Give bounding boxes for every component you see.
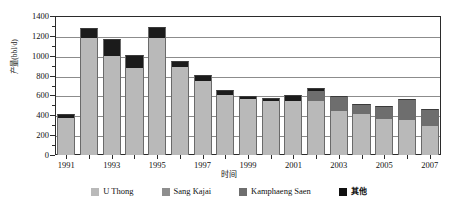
x-tick-label: 2007 — [412, 160, 448, 170]
bar-column[interactable] — [171, 61, 189, 155]
bar-segment[interactable] — [421, 109, 439, 126]
bar-segment[interactable] — [307, 101, 325, 155]
y-tick-label: 200 — [15, 131, 49, 140]
bar-segment[interactable] — [125, 55, 143, 68]
x-tick-label: 1997 — [185, 160, 221, 170]
y-tick-label: 1000 — [15, 52, 49, 61]
legend-swatch-icon — [162, 188, 170, 196]
x-tick-label: 2005 — [366, 160, 402, 170]
x-tick-mark — [362, 155, 363, 159]
x-tick-mark — [134, 155, 135, 159]
x-tick-mark — [89, 155, 90, 159]
bar-segment[interactable] — [262, 101, 280, 155]
legend-swatch-icon — [239, 188, 247, 196]
bar-segment[interactable] — [330, 111, 348, 155]
x-tick-label: 2001 — [275, 160, 311, 170]
x-tick-mark — [430, 155, 431, 159]
bar-segment[interactable] — [103, 56, 121, 155]
y-tick-label: 1400 — [15, 12, 49, 21]
x-tick-mark — [180, 155, 181, 159]
x-tick-mark — [112, 155, 113, 159]
legend-item[interactable]: Sang Kajai — [162, 187, 212, 196]
bar-segment[interactable] — [171, 67, 189, 155]
legend-item[interactable]: Kamphaeng Saen — [239, 187, 311, 196]
legend-label: Sang Kajai — [174, 187, 212, 196]
x-tick-label: 1999 — [230, 160, 266, 170]
legend-item[interactable]: U Thong — [91, 187, 133, 196]
bar-column[interactable] — [307, 88, 325, 155]
legend-label: Kamphaeng Saen — [251, 187, 311, 196]
x-axis-title: 时间 — [0, 170, 458, 180]
bar-segment[interactable] — [330, 96, 348, 111]
x-tick-mark — [66, 155, 67, 159]
bar-segment[interactable] — [375, 106, 393, 119]
x-tick-mark — [384, 155, 385, 159]
y-tick-mark — [50, 155, 55, 156]
bar-segment[interactable] — [57, 118, 75, 155]
bar-column[interactable] — [194, 75, 212, 155]
chart-figure: 产量(bbl/d) 0200400600800100012001400 1991… — [0, 0, 458, 212]
bar-segment[interactable] — [239, 99, 257, 155]
x-tick-label: 1993 — [94, 160, 130, 170]
bar-segment[interactable] — [148, 27, 166, 37]
legend-swatch-icon — [339, 188, 347, 196]
x-tick-label: 1995 — [139, 160, 175, 170]
x-tick-mark — [157, 155, 158, 159]
bar-column[interactable] — [262, 98, 280, 155]
x-tick-mark — [248, 155, 249, 159]
x-tick-label: 1991 — [48, 160, 84, 170]
x-tick-mark — [203, 155, 204, 159]
bar-segment[interactable] — [80, 38, 98, 155]
bar-group — [55, 16, 441, 155]
x-tick-mark — [339, 155, 340, 159]
bar-segment[interactable] — [284, 101, 302, 155]
chart-legend: U ThongSang KajaiKamphaeng Saen其他 — [0, 187, 458, 196]
bar-segment[interactable] — [194, 81, 212, 155]
x-tick-mark — [271, 155, 272, 159]
bar-column[interactable] — [216, 90, 234, 155]
y-tick-label: 600 — [15, 91, 49, 100]
bar-column[interactable] — [421, 109, 439, 155]
bar-column[interactable] — [239, 96, 257, 155]
bar-column[interactable] — [148, 27, 166, 155]
bar-segment[interactable] — [307, 91, 325, 101]
x-tick-mark — [316, 155, 317, 159]
bar-segment[interactable] — [125, 68, 143, 155]
bar-segment[interactable] — [421, 126, 439, 155]
bar-segment[interactable] — [103, 39, 121, 56]
bar-segment[interactable] — [216, 95, 234, 155]
bar-column[interactable] — [80, 28, 98, 155]
bar-column[interactable] — [330, 96, 348, 155]
y-tick-label: 400 — [15, 111, 49, 120]
bar-segment[interactable] — [352, 104, 370, 114]
legend-label: U Thong — [103, 187, 133, 196]
bar-segment[interactable] — [398, 99, 416, 120]
bar-segment[interactable] — [398, 120, 416, 155]
y-tick-label: 1200 — [15, 32, 49, 41]
bar-column[interactable] — [103, 39, 121, 155]
legend-swatch-icon — [91, 188, 99, 196]
bar-segment[interactable] — [352, 114, 370, 155]
legend-label: 其他 — [351, 187, 367, 196]
bar-column[interactable] — [375, 106, 393, 155]
bar-column[interactable] — [352, 104, 370, 155]
x-tick-mark — [293, 155, 294, 159]
bar-segment[interactable] — [375, 119, 393, 155]
legend-item[interactable]: 其他 — [339, 187, 367, 196]
bar-segment[interactable] — [148, 38, 166, 155]
bar-segment[interactable] — [80, 28, 98, 38]
x-tick-mark — [407, 155, 408, 159]
x-tick-label: 2003 — [321, 160, 357, 170]
bar-column[interactable] — [125, 55, 143, 155]
bar-column[interactable] — [57, 114, 75, 155]
bar-column[interactable] — [284, 95, 302, 155]
y-tick-label: 0 — [15, 151, 49, 160]
y-tick-label: 800 — [15, 72, 49, 81]
bar-column[interactable] — [398, 99, 416, 155]
x-tick-mark — [225, 155, 226, 159]
